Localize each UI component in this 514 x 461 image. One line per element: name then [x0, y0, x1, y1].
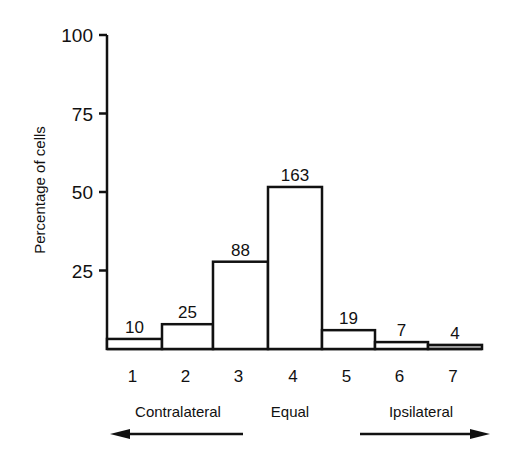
bar-6 — [375, 342, 428, 349]
bar-7 — [428, 345, 482, 349]
direction-label-ipsilateral: Ipsilateral — [389, 403, 453, 420]
bar-4 — [268, 187, 322, 349]
x-tick-label: 3 — [234, 367, 243, 386]
bar-5 — [322, 330, 375, 349]
y-tick-label: 100 — [61, 25, 93, 46]
histogram-chart: 255075100 Percentage of cells 1025881631… — [0, 0, 514, 461]
x-tick-label: 6 — [395, 367, 404, 386]
y-tick-label: 50 — [72, 182, 93, 203]
direction-label-contralateral: Contralateral — [135, 403, 221, 420]
bar-count-label: 25 — [178, 303, 197, 322]
bar-3 — [213, 262, 268, 349]
bar-count-label: 163 — [281, 166, 309, 185]
bar-count-label: 19 — [339, 309, 358, 328]
direction-labels: ContralateralEqualIpsilateral — [110, 403, 490, 439]
direction-label-equal: Equal — [271, 403, 309, 420]
arrow-right-icon — [470, 429, 490, 439]
x-tick-label: 7 — [448, 367, 457, 386]
bar-count-label: 10 — [125, 318, 144, 337]
bar-count-label: 88 — [231, 241, 250, 260]
x-tick-label: 2 — [181, 367, 190, 386]
y-axis-label: Percentage of cells — [31, 126, 48, 254]
x-tick-labels: 1234567 — [128, 367, 458, 386]
bar-1 — [107, 339, 162, 349]
arrow-left-icon — [110, 429, 130, 439]
y-tick-label: 25 — [72, 261, 93, 282]
y-tick-label: 75 — [72, 104, 93, 125]
x-tick-label: 5 — [342, 367, 351, 386]
bar-2 — [162, 324, 213, 349]
x-tick-label: 1 — [128, 367, 137, 386]
bars — [107, 187, 482, 349]
x-tick-label: 4 — [288, 367, 297, 386]
bar-count-label: 7 — [397, 321, 406, 340]
bar-count-label: 4 — [450, 324, 459, 343]
